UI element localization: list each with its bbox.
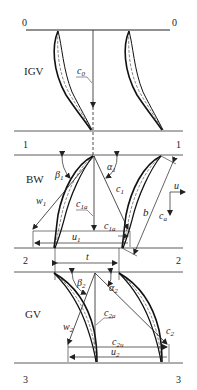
label-c1: c1 (116, 183, 124, 196)
label-c1a: c1a (76, 198, 88, 211)
station-label-3-left: 3 (23, 374, 28, 385)
station-label-0-right: 0 (172, 17, 177, 28)
label-c0: c0 (77, 65, 85, 78)
row-label-igv: IGV (24, 65, 44, 77)
label-alpha2: α2 (109, 282, 118, 295)
label-beta1: β1 (54, 169, 63, 182)
dimension-chord-b (134, 162, 173, 254)
gv-blade-left (54, 273, 97, 362)
label-w2: w2 (63, 321, 74, 334)
label-axis-u: u (174, 180, 179, 191)
label-axis-ca: ca (159, 210, 167, 223)
row-label-gv: GV (25, 308, 41, 320)
igv-blade-left (54, 31, 92, 130)
station-label-3-right: 3 (176, 374, 181, 385)
station-label-0-left: 0 (22, 17, 27, 28)
bw-blade-right (122, 156, 161, 248)
row-label-bw: BW (26, 173, 44, 185)
igv-blade-right (125, 31, 163, 130)
label-alpha1: α1 (107, 161, 116, 174)
station-label-2-left: 2 (23, 255, 28, 266)
station-label-1-left: 1 (23, 139, 28, 150)
blade-cascade-diagram: 0 0 1 1 2 2 3 3 IGV BW GV c0 w1 (0, 0, 197, 390)
label-beta2: β2 (76, 277, 86, 290)
label-pitch-t: t (86, 251, 89, 262)
chord-ext-top (161, 156, 176, 164)
label-c2: c2 (166, 325, 174, 338)
station-label-1-right: 1 (176, 139, 181, 150)
label-chord-b: b (143, 206, 149, 218)
station-label-2-right: 2 (176, 255, 181, 266)
label-u1: u1 (72, 231, 81, 244)
label-w1: w1 (36, 195, 46, 208)
